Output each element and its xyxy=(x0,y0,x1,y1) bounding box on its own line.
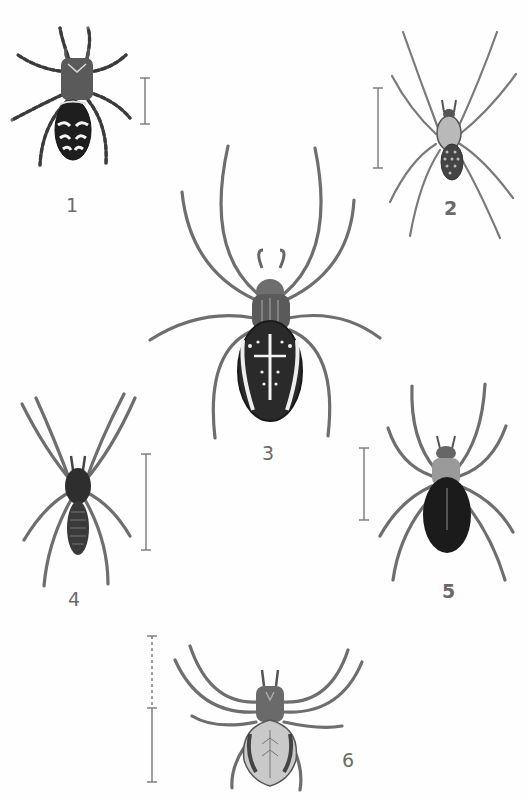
figure-label-2: 2 xyxy=(444,197,457,219)
scale-bar-6 xyxy=(147,636,157,782)
scale-bar-5 xyxy=(359,448,369,520)
figure-label-5: 5 xyxy=(442,580,455,602)
spider-6 xyxy=(175,646,362,790)
scale-bar-1 xyxy=(140,78,150,124)
figure-label-3: 3 xyxy=(262,442,274,464)
scale-bar-4 xyxy=(141,454,151,550)
spider-plate: .leg { fill:none; stroke:#6e6e6e; stroke… xyxy=(0,0,530,801)
figure-label-1: 1 xyxy=(66,194,78,216)
spider-3 xyxy=(150,146,380,438)
spider-5 xyxy=(380,384,513,580)
spider-1 xyxy=(12,28,130,165)
spider-illustrations: .leg { fill:none; stroke:#6e6e6e; stroke… xyxy=(0,0,530,801)
figure-label-4: 4 xyxy=(68,588,80,610)
figure-label-6: 6 xyxy=(342,749,354,771)
spider-4 xyxy=(22,394,135,586)
scale-bar-2 xyxy=(373,88,383,168)
